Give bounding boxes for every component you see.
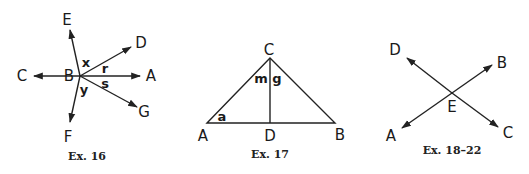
label-E: E xyxy=(62,11,71,29)
label-C: C xyxy=(264,41,274,59)
angle-label-m: m xyxy=(254,71,268,86)
angle-label-a: a xyxy=(218,109,227,124)
label-C: C xyxy=(503,124,513,142)
label-A: A xyxy=(386,127,397,145)
angle-label-g: g xyxy=(272,71,281,86)
ray-EB xyxy=(452,65,492,93)
diagram-stage: B C A E D G F x r s y Ex. 16 C A D B m g… xyxy=(0,0,529,174)
label-E: E xyxy=(447,98,456,116)
angle-label-y: y xyxy=(80,82,89,97)
label-D: D xyxy=(389,41,401,59)
label-G: G xyxy=(138,103,150,121)
label-D: D xyxy=(264,127,276,145)
figure-ex17: C A D B m g a Ex. 17 xyxy=(198,41,345,161)
ray-ED xyxy=(407,58,452,93)
label-C: C xyxy=(17,67,27,85)
figure-ex18-22: D B A C E Ex. 18–22 xyxy=(386,41,513,157)
figure-ex16: B C A E D G F x r s y Ex. 16 xyxy=(17,11,157,163)
angle-label-s: s xyxy=(101,76,109,91)
caption-ex18-22: Ex. 18–22 xyxy=(423,144,482,157)
caption-ex17: Ex. 17 xyxy=(251,148,289,161)
label-A: A xyxy=(146,67,157,85)
label-F: F xyxy=(64,128,73,146)
label-D: D xyxy=(135,34,147,52)
ray-EC xyxy=(452,93,498,127)
label-B: B xyxy=(64,67,74,85)
ray-EA xyxy=(402,93,452,128)
caption-ex16: Ex. 16 xyxy=(68,150,106,163)
geometry-figures: B C A E D G F x r s y Ex. 16 C A D B m g… xyxy=(0,0,529,174)
label-B: B xyxy=(497,54,507,72)
label-A: A xyxy=(198,127,209,145)
label-B: B xyxy=(335,126,345,144)
angle-label-r: r xyxy=(102,61,109,76)
angle-label-x: x xyxy=(82,55,91,70)
